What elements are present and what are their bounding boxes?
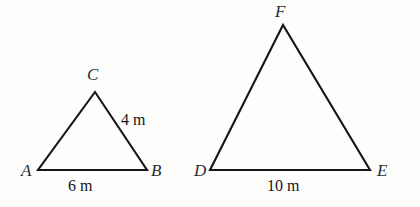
- triangle-def-outline: [210, 25, 370, 170]
- vertex-label-a: A: [21, 162, 31, 179]
- side-length-label-ab: 6 m: [68, 178, 92, 194]
- vertex-label-c: C: [87, 66, 98, 83]
- triangle-abc-outline: [38, 92, 147, 170]
- vertex-label-b: B: [151, 162, 161, 179]
- vertex-label-e: E: [377, 162, 387, 179]
- similar-triangles-figure: A B C 4 m 6 m D E F 10 m: [0, 0, 420, 207]
- vertex-label-f: F: [275, 3, 285, 20]
- triangles-drawing-layer: [0, 0, 420, 207]
- vertex-label-d: D: [194, 162, 206, 179]
- side-length-label-de: 10 m: [267, 178, 299, 194]
- side-length-label-cb: 4 m: [121, 112, 145, 128]
